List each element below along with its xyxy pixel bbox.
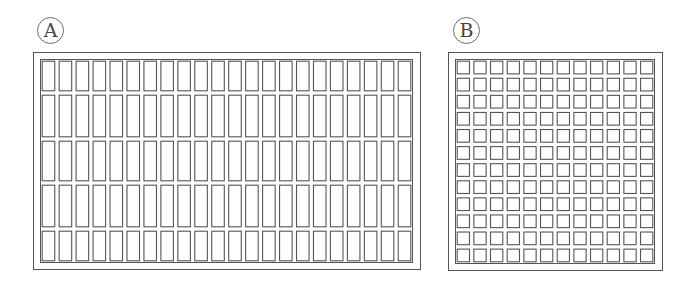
- cell: [557, 130, 569, 143]
- cell: [297, 95, 310, 137]
- cell: [574, 198, 586, 211]
- cell: [607, 232, 619, 245]
- cell: [557, 61, 569, 74]
- cell: [541, 198, 553, 211]
- cell: [491, 95, 503, 108]
- cell: [641, 147, 653, 160]
- cell: [398, 95, 411, 137]
- cell-grids: [0, 0, 692, 284]
- cell: [591, 232, 603, 245]
- cell: [212, 141, 225, 181]
- cell: [624, 61, 636, 74]
- cell: [42, 231, 55, 261]
- cell: [491, 78, 503, 91]
- cell: [557, 112, 569, 125]
- cell: [144, 61, 157, 91]
- cell: [607, 61, 619, 74]
- cell: [641, 198, 653, 211]
- cell: [541, 78, 553, 91]
- cell: [457, 215, 469, 228]
- cell: [607, 198, 619, 211]
- cell: [574, 181, 586, 194]
- cell: [457, 95, 469, 108]
- cell: [76, 95, 89, 137]
- cell: [641, 181, 653, 194]
- cell: [607, 249, 619, 262]
- cell: [474, 249, 486, 262]
- cell: [607, 164, 619, 177]
- cell: [491, 130, 503, 143]
- cell: [42, 95, 55, 137]
- cell: [591, 112, 603, 125]
- cell: [491, 215, 503, 228]
- cell: [59, 61, 72, 91]
- cell: [624, 78, 636, 91]
- cell: [524, 147, 536, 160]
- cell: [474, 95, 486, 108]
- cell: [398, 61, 411, 91]
- cell: [381, 95, 394, 137]
- cell: [574, 232, 586, 245]
- cell: [457, 198, 469, 211]
- cell: [93, 95, 106, 137]
- cell: [280, 141, 293, 181]
- cell: [591, 164, 603, 177]
- cell: [364, 185, 377, 227]
- cell: [263, 95, 276, 137]
- cell: [364, 141, 377, 181]
- cell: [474, 112, 486, 125]
- cell: [161, 231, 174, 261]
- cell: [212, 185, 225, 227]
- cell: [110, 61, 123, 91]
- cell: [93, 61, 106, 91]
- cell: [246, 95, 259, 137]
- cell: [507, 249, 519, 262]
- cell: [127, 61, 140, 91]
- cell: [297, 231, 310, 261]
- cell: [59, 141, 72, 181]
- cell: [42, 61, 55, 91]
- cell: [591, 147, 603, 160]
- cell: [76, 231, 89, 261]
- cell: [591, 181, 603, 194]
- cell: [161, 61, 174, 91]
- cell: [330, 231, 343, 261]
- cell: [624, 232, 636, 245]
- cell: [607, 78, 619, 91]
- cell: [507, 164, 519, 177]
- cell: [381, 185, 394, 227]
- cell: [110, 95, 123, 137]
- cell: [574, 78, 586, 91]
- cell: [457, 232, 469, 245]
- cell: [524, 181, 536, 194]
- cell: [541, 95, 553, 108]
- cell: [280, 231, 293, 261]
- cell: [178, 95, 191, 137]
- cell: [229, 141, 242, 181]
- cell: [491, 147, 503, 160]
- cell: [474, 181, 486, 194]
- cell: [474, 130, 486, 143]
- cell: [474, 61, 486, 74]
- cell: [229, 95, 242, 137]
- cell: [541, 232, 553, 245]
- cell: [229, 185, 242, 227]
- cell: [93, 185, 106, 227]
- cell: [507, 112, 519, 125]
- cell: [313, 95, 326, 137]
- cell: [42, 141, 55, 181]
- cell: [313, 231, 326, 261]
- cell: [607, 112, 619, 125]
- cell: [624, 147, 636, 160]
- cell: [574, 215, 586, 228]
- cell: [347, 185, 360, 227]
- cell: [297, 61, 310, 91]
- cell: [280, 95, 293, 137]
- cell: [347, 231, 360, 261]
- cell: [76, 61, 89, 91]
- cell: [641, 78, 653, 91]
- cell: [607, 181, 619, 194]
- cell: [641, 112, 653, 125]
- cell: [474, 78, 486, 91]
- cell: [127, 231, 140, 261]
